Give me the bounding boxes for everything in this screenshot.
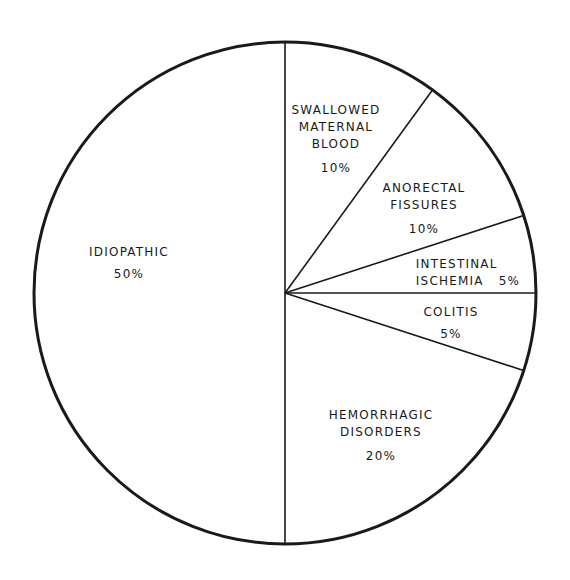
label-line: COLITIS [424,304,479,321]
label-line: BLOOD [292,136,381,153]
pie-chart [0,0,570,580]
slice-label-idiopathic: IDIOPATHIC 50% [89,244,169,283]
slice-label-anorectal-fissures: ANORECTAL FISSURES 10% [382,180,465,238]
slice-label-hemorrhagic-disorders: HEMORRHAGIC DISORDERS 20% [329,407,434,465]
label-line: IDIOPATHIC [89,244,169,261]
slice-pct: 10% [382,221,465,238]
label-line: DISORDERS [329,424,434,441]
slice-pct: 5% [424,326,479,343]
slice-label-colitis: COLITIS 5% [424,304,479,343]
label-line: INTESTINAL [416,256,520,273]
slice-label-swallowed-maternal-blood: SWALLOWED MATERNAL BLOOD 10% [292,102,381,177]
label-line: MATERNAL [292,119,381,136]
label-line: HEMORRHAGIC [329,407,434,424]
slice-pct: 10% [292,160,381,177]
label-line: FISSURES [382,197,465,214]
label-line: SWALLOWED [292,102,381,119]
slice-label-intestinal-ischemia: INTESTINAL ISCHEMIA 5% [416,256,520,290]
slice-pct: 5% [499,274,520,288]
slice-pct: 50% [89,266,169,283]
slice-pct: 20% [329,448,434,465]
label-line: ISCHEMIA [416,274,484,288]
label-line: ANORECTAL [382,180,465,197]
